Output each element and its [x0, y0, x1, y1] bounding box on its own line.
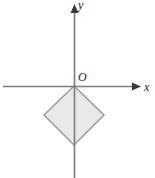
x-axis-label: x: [143, 80, 150, 94]
origin-label: O: [78, 70, 87, 84]
coordinate-plane-svg: O x y: [0, 0, 155, 178]
y-axis-label: y: [77, 0, 84, 12]
x-axis-arrow-icon: [132, 83, 141, 91]
figure-canvas: O x y: [0, 0, 155, 178]
